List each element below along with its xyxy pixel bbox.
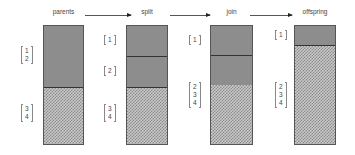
offspring-pattern-segment	[295, 46, 335, 144]
bracket-split-b: 2	[104, 66, 116, 76]
bracket-item: 4	[108, 113, 112, 121]
bracket-offspring-bottom: 2 3 4	[275, 82, 287, 108]
arrow-icon	[250, 15, 292, 16]
bracket-item: 3	[25, 105, 29, 113]
bracket-split-bottom: 3 4	[104, 104, 116, 122]
join-solid-segment-2	[211, 56, 252, 85]
join-bar	[210, 25, 253, 145]
offspring-bar	[294, 25, 336, 145]
split-pattern-segment	[127, 88, 167, 144]
arrow-icon	[85, 15, 131, 16]
parents-bar	[43, 25, 84, 145]
bracket-item: 3	[108, 105, 112, 113]
bracket-parents-top: 1 2	[21, 46, 33, 64]
stage-label-parents: parents	[43, 8, 84, 15]
bracket-item: 3	[193, 91, 197, 99]
offspring-solid-segment	[295, 26, 335, 45]
bracket-item: 2	[25, 55, 29, 63]
bracket-join-bottom: 2 3 4	[189, 82, 201, 108]
split-bar	[126, 25, 168, 145]
bracket-join-top: 1	[189, 35, 201, 45]
bracket-offspring-top: 1	[275, 30, 287, 40]
bracket-item: 4	[25, 113, 29, 121]
split-solid-segment-1	[127, 26, 167, 56]
parents-solid-segment	[44, 26, 83, 87]
bracket-item: 2	[279, 83, 283, 91]
bracket-item: 3	[279, 91, 283, 99]
stage-label-split: split	[126, 8, 168, 15]
bracket-item: 4	[193, 99, 197, 107]
bracket-split-a: 1	[104, 35, 116, 45]
stage-label-offspring: offspring	[290, 8, 340, 15]
bracket-item: 1	[25, 47, 29, 55]
split-solid-segment-2	[127, 57, 167, 87]
bracket-item: 1	[108, 36, 112, 44]
stage-label-join: join	[210, 8, 253, 15]
bracket-item: 1	[279, 31, 283, 39]
join-solid-segment-1	[211, 26, 252, 55]
join-pattern-segment	[211, 85, 252, 144]
bracket-item: 1	[193, 36, 197, 44]
bracket-item: 4	[279, 99, 283, 107]
bracket-item: 2	[108, 67, 112, 75]
bracket-item: 2	[193, 83, 197, 91]
arrow-icon	[170, 15, 210, 16]
bracket-parents-bottom: 3 4	[21, 104, 33, 122]
parents-pattern-segment	[44, 88, 83, 144]
